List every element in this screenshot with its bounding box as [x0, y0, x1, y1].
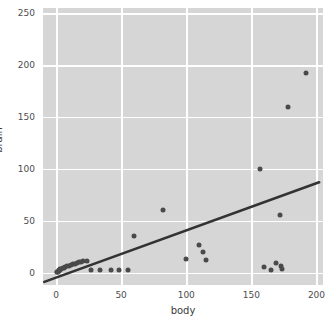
- x-tick-label: 150: [231, 290, 271, 300]
- y-tick-label: 150: [5, 112, 35, 122]
- y-tick-label: 50: [5, 216, 35, 226]
- x-tick-label: 0: [36, 290, 76, 300]
- y-tick-label: 200: [5, 60, 35, 70]
- regression-line: [43, 8, 323, 285]
- y-tick-label: 100: [5, 164, 35, 174]
- y-tick-label: 250: [5, 8, 35, 18]
- x-tick-label: 100: [166, 290, 206, 300]
- x-tick-label: 200: [296, 290, 327, 300]
- scatter-plot-figure: 050100150200250 050100150200 brain body: [0, 0, 327, 323]
- x-tick-label: 50: [101, 290, 141, 300]
- x-axis-label: body: [171, 305, 196, 316]
- plot-panel: [43, 8, 323, 285]
- y-tick-label: 0: [5, 268, 35, 278]
- y-axis-label: brain: [0, 127, 4, 153]
